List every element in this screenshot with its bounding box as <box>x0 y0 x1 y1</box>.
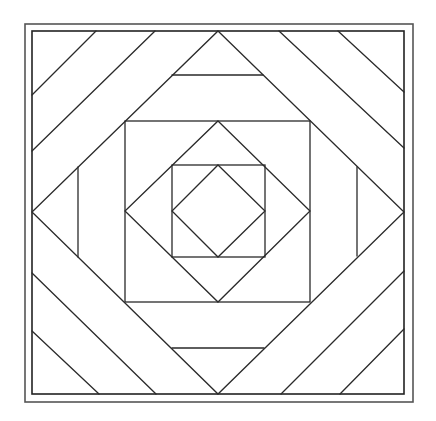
bars-group <box>78 75 357 348</box>
br-stripe-1 <box>340 329 404 394</box>
middle-diamond <box>125 121 310 302</box>
tr-stripe-1 <box>338 31 404 92</box>
inner-square <box>172 165 265 257</box>
outer-diamond <box>32 31 404 394</box>
inner-frame <box>32 31 404 394</box>
tl-stripe-2 <box>32 31 155 151</box>
outer-frame <box>25 24 413 402</box>
bl-stripe-2 <box>32 273 156 394</box>
tl-stripe-1 <box>32 31 96 95</box>
br-stripe-2 <box>281 271 404 394</box>
inner-diamond <box>172 165 265 257</box>
middle-square <box>125 121 310 302</box>
corner-stripes-group <box>32 31 404 394</box>
tr-stripe-2 <box>279 31 404 148</box>
quilt-diagram <box>0 0 436 421</box>
bl-stripe-1 <box>32 331 99 394</box>
